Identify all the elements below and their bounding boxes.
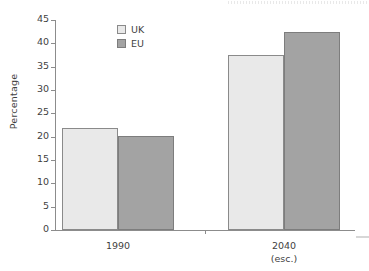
legend-label-uk: UK — [131, 25, 144, 35]
legend-label-eu: EU — [131, 39, 144, 49]
y-tick-label-35: 35 — [21, 60, 49, 71]
y-tick-label-45: 45 — [21, 13, 49, 24]
legend-item-eu: EU — [117, 37, 144, 50]
bar-uk-2040 — [228, 55, 284, 230]
category-label-main: 2040 — [272, 240, 296, 251]
bar-eu-2040 — [284, 32, 340, 230]
y-tick-label-30: 30 — [21, 83, 49, 94]
y-tick-45 — [51, 20, 55, 21]
chart-legend: UK EU — [117, 23, 144, 51]
legend-item-uk: UK — [117, 23, 144, 36]
bar-chart: Percentage 454035302520151050 19902040(e… — [0, 0, 369, 271]
plot-area: 454035302520151050 19902040(esc.) — [55, 20, 355, 231]
y-tick-label-20: 20 — [21, 130, 49, 141]
category-label-1990: 1990 — [78, 239, 158, 252]
scan-artifact-right — [356, 236, 369, 238]
scan-artifact-top — [228, 1, 368, 4]
y-tick-label-0: 0 — [21, 223, 49, 234]
legend-swatch-eu-icon — [117, 39, 126, 48]
category-label-main: 1990 — [106, 240, 130, 251]
y-tick-35 — [51, 67, 55, 68]
y-tick-30 — [51, 90, 55, 91]
x-tick-mid — [205, 230, 206, 234]
y-tick-40 — [51, 43, 55, 44]
category-label-2040: 2040(esc.) — [244, 239, 324, 265]
y-tick-label-5: 5 — [21, 200, 49, 211]
y-tick-label-40: 40 — [21, 36, 49, 47]
y-tick-25 — [51, 113, 55, 114]
y-axis-line — [55, 20, 56, 231]
y-tick-label-25: 25 — [21, 106, 49, 117]
category-sublabel: (esc.) — [244, 252, 324, 265]
legend-swatch-uk-icon — [117, 25, 126, 34]
y-tick-5 — [51, 207, 55, 208]
y-tick-10 — [51, 183, 55, 184]
y-tick-20 — [51, 137, 55, 138]
y-tick-label-15: 15 — [21, 153, 49, 164]
bar-eu-1990 — [118, 136, 174, 230]
y-tick-label-10: 10 — [21, 176, 49, 187]
y-axis-label: Percentage — [8, 67, 19, 137]
bar-uk-1990 — [62, 128, 118, 230]
y-tick-15 — [51, 160, 55, 161]
y-tick-0 — [51, 230, 55, 231]
